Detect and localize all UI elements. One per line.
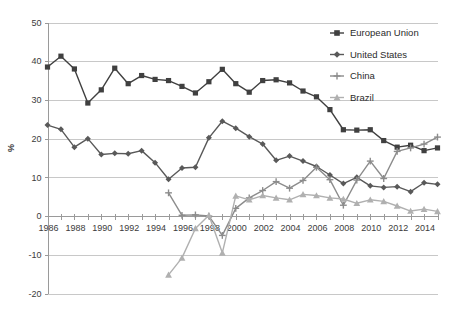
data-point-marker <box>334 30 340 36</box>
y-tick-labels-group: 50403020100-10-20 <box>28 18 41 299</box>
data-point-marker <box>179 84 184 89</box>
data-point-marker <box>165 189 172 196</box>
data-point-marker <box>274 77 279 82</box>
data-point-marker <box>327 107 332 112</box>
legend-item-united-states[interactable]: United States <box>330 49 407 60</box>
data-point-marker <box>381 138 386 143</box>
y-tick-label: 30 <box>31 95 41 105</box>
data-point-marker <box>85 100 90 105</box>
data-point-marker <box>260 78 265 83</box>
series-european-union <box>45 54 440 154</box>
y-axis-title-group: % <box>6 144 16 152</box>
y-tick-label: 20 <box>31 134 41 144</box>
legend-item-china[interactable]: China <box>330 70 376 81</box>
data-point-marker <box>45 122 51 128</box>
data-point-marker <box>286 185 293 192</box>
series-brazil <box>165 191 441 278</box>
data-point-marker <box>247 90 252 95</box>
data-point-marker <box>206 79 211 84</box>
data-point-marker <box>125 151 131 157</box>
series-line <box>48 56 438 150</box>
data-point-marker <box>58 54 63 59</box>
data-point-marker <box>126 81 131 86</box>
data-point-marker <box>45 64 50 69</box>
data-point-marker <box>112 66 117 71</box>
legend-label: China <box>350 70 376 81</box>
gridlines-group <box>48 24 438 295</box>
data-point-marker <box>139 73 144 78</box>
data-point-marker <box>112 150 118 156</box>
x-tick-label: 2006 <box>307 223 327 233</box>
series-line <box>48 121 438 191</box>
data-point-marker <box>300 88 305 93</box>
data-point-marker <box>368 127 373 132</box>
y-tick-label: 10 <box>31 173 41 183</box>
data-point-marker <box>314 94 319 99</box>
data-point-marker <box>287 153 293 159</box>
data-point-marker <box>192 212 199 219</box>
data-point-marker <box>435 145 440 150</box>
legend-label: United States <box>350 49 407 60</box>
legend-item-european-union[interactable]: European Union <box>330 27 419 38</box>
x-tick-label: 2012 <box>388 223 408 233</box>
data-series-group <box>45 54 441 278</box>
axes-group <box>45 23 439 295</box>
data-point-marker <box>300 158 306 164</box>
x-tick-label: 2010 <box>361 223 381 233</box>
x-tick-label: 2002 <box>254 223 274 233</box>
y-axis-title: % <box>6 144 16 152</box>
x-tick-label: 2014 <box>415 223 435 233</box>
data-point-marker <box>179 212 186 219</box>
data-point-marker <box>219 249 226 255</box>
data-point-marker <box>421 141 428 148</box>
x-tick-labels-group: 1986198819901992199419961998200020022004… <box>38 223 435 233</box>
y-tick-label: 40 <box>31 56 41 66</box>
y-tick-label: 50 <box>31 18 41 28</box>
x-tick-label: 1990 <box>92 223 112 233</box>
y-tick-label: -10 <box>28 250 41 260</box>
data-point-marker <box>166 78 171 83</box>
data-point-marker <box>72 66 77 71</box>
data-point-marker <box>287 80 292 85</box>
data-point-marker <box>193 90 198 95</box>
legend-item-brazil[interactable]: Brazil <box>330 92 374 103</box>
y-tick-label: 0 <box>36 211 41 221</box>
data-point-marker <box>205 212 212 218</box>
legend-label: Brazil <box>350 92 374 103</box>
data-point-marker <box>340 202 347 209</box>
legend-group: European UnionUnited StatesChinaBrazil <box>330 27 419 103</box>
data-point-marker <box>394 184 400 190</box>
data-point-marker <box>435 181 441 187</box>
data-point-marker <box>192 164 198 170</box>
data-point-marker <box>341 127 346 132</box>
data-point-marker <box>99 87 104 92</box>
x-tick-label: 1988 <box>65 223 85 233</box>
legend-label: European Union <box>350 27 419 38</box>
data-point-marker <box>381 184 387 190</box>
x-tick-label: 2004 <box>281 223 301 233</box>
data-point-marker <box>334 51 341 58</box>
series-united-states <box>45 118 441 194</box>
data-point-marker <box>233 81 238 86</box>
x-tick-label: 1986 <box>38 223 58 233</box>
data-point-marker <box>421 148 426 153</box>
chart-canvas: 50403020100-10-20 1986198819901992199419… <box>0 0 451 312</box>
data-point-marker <box>334 73 341 80</box>
data-point-marker <box>220 67 225 72</box>
x-tick-label: 1992 <box>119 223 139 233</box>
data-point-marker <box>354 128 359 133</box>
line-chart: 50403020100-10-20 1986198819901992199419… <box>0 0 451 312</box>
x-tick-label: 2008 <box>334 223 354 233</box>
y-tick-label: -20 <box>28 289 41 299</box>
x-tick-label: 1994 <box>146 223 166 233</box>
x-tick-label: 1996 <box>173 223 193 233</box>
data-point-marker <box>232 193 239 199</box>
data-point-marker <box>152 77 157 82</box>
